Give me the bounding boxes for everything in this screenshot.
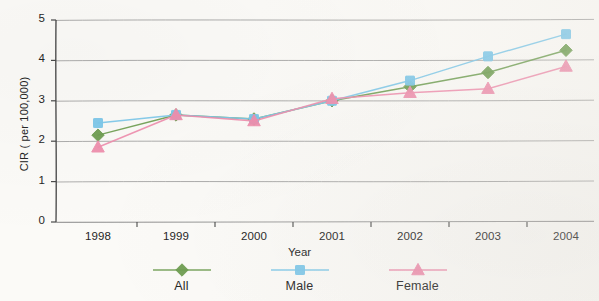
gridline-y-4	[56, 60, 594, 61]
x-axis-title: Year	[0, 246, 599, 258]
gridline-y-1	[56, 181, 594, 182]
axis-ticks-group	[51, 20, 527, 227]
gridline-y-2	[56, 141, 594, 142]
x-tick-label-1999: 1999	[151, 230, 201, 242]
data-point-female-2004	[560, 60, 573, 71]
x-tick-label-2000: 2000	[229, 230, 279, 242]
x-tick-label-1998: 1998	[73, 230, 123, 242]
legend-item-female[interactable]: Female	[379, 262, 457, 293]
series-male	[94, 30, 571, 128]
legend-label-all: All	[174, 279, 189, 293]
y-tick-label-4: 4	[23, 52, 45, 64]
data-point-male-2002	[406, 76, 415, 85]
data-point-male-2003	[484, 52, 493, 61]
x-tick-label-2002: 2002	[385, 230, 435, 242]
y-axis-title: CIR ( per 100,000)	[18, 64, 30, 184]
legend-label-male: Male	[286, 279, 314, 293]
data-point-all-1998	[92, 129, 104, 141]
data-point-male-1998	[94, 119, 103, 128]
data-point-male-2004	[562, 30, 571, 39]
x-tick-label-2004: 2004	[541, 230, 591, 242]
chart-legend: AllMaleFemale	[0, 262, 599, 293]
legend-marker-square-icon	[267, 262, 333, 278]
y-tick-label-5: 5	[23, 12, 45, 24]
gridline-y-5	[56, 19, 594, 20]
legend-marker-diamond-icon	[149, 262, 215, 278]
data-point-all-2004	[560, 44, 572, 56]
data-series-group	[92, 30, 573, 152]
data-point-all-2003	[482, 66, 494, 78]
x-tick-label-2001: 2001	[307, 230, 357, 242]
line-chart-figure: 012345 1998199920002001200220032004 CIR …	[0, 0, 599, 301]
legend-marker-triangle-icon	[385, 262, 451, 278]
y-tick-label-0: 0	[23, 214, 45, 226]
data-point-female-1998	[92, 141, 105, 152]
series-line-male	[98, 34, 566, 123]
legend-item-male[interactable]: Male	[261, 262, 339, 293]
legend-item-all[interactable]: All	[143, 262, 221, 293]
legend-label-female: Female	[396, 279, 439, 293]
x-tick-label-2003: 2003	[463, 230, 513, 242]
